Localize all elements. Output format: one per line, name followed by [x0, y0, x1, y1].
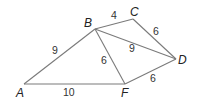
vertex-label-c: C: [130, 5, 139, 19]
edge-bf: [95, 29, 125, 84]
edge-bd: [95, 29, 176, 59]
edge-ab: [24, 29, 95, 84]
edge-labels-group: 94696610: [52, 9, 159, 98]
edge-length-ab: 9: [52, 44, 58, 56]
edge-length-bf: 6: [101, 54, 107, 66]
vertex-label-f: F: [121, 86, 129, 100]
vertex-label-b: B: [84, 16, 92, 30]
vertex-label-d: D: [178, 53, 187, 67]
edge-length-cd: 6: [153, 25, 159, 37]
edge-length-bc: 4: [111, 9, 117, 21]
edge-length-bd: 9: [129, 42, 135, 54]
geometry-diagram: 94696610 ABCDF: [0, 0, 198, 101]
edge-length-fd: 6: [150, 72, 156, 84]
edge-length-af: 10: [63, 86, 75, 98]
vertex-label-a: A: [15, 86, 24, 100]
vertex-labels-group: ABCDF: [15, 5, 187, 100]
